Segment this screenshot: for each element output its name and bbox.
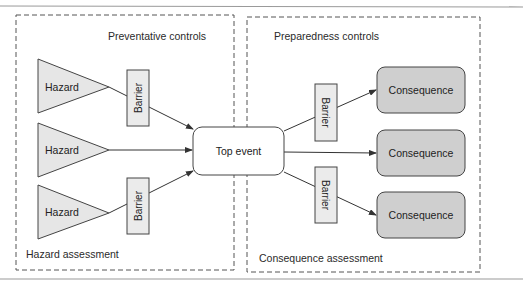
- bow-tie-diagram: Preventative controls Hazard assessment …: [0, 0, 523, 289]
- barrier-label: Barrier: [133, 82, 144, 113]
- consequence-assessment-label: Consequence assessment: [259, 252, 383, 264]
- connector-hazard-3: [109, 171, 193, 213]
- consequence-node-2: Consequence: [377, 130, 465, 176]
- consequence-node-1: Consequence: [377, 67, 465, 113]
- hazard-barrier-1: Barrier: [127, 70, 149, 126]
- hazard-node-1: Hazard: [38, 59, 109, 113]
- hazard-assessment-label: Hazard assessment: [26, 248, 119, 260]
- hazard-node-3: Hazard: [38, 185, 109, 239]
- top-event-label: Top event: [216, 145, 262, 157]
- barrier-label: Barrier: [133, 190, 144, 221]
- preventative-controls-title: Preventative controls: [108, 30, 206, 42]
- consequence-barrier-1: Barrier: [315, 84, 337, 141]
- consequence-label: Consequence: [389, 209, 454, 221]
- top-event-node: Top event: [193, 127, 284, 175]
- top-rule: [0, 6, 523, 7]
- hazard-barrier-2: Barrier: [127, 178, 149, 234]
- consequence-label: Consequence: [389, 84, 454, 96]
- connector-consequence-2: [284, 152, 376, 153]
- hazard-label: Hazard: [45, 81, 79, 93]
- barrier-label: Barrier: [320, 180, 331, 211]
- hazard-label: Hazard: [45, 144, 79, 156]
- hazard-node-2: Hazard: [38, 123, 109, 177]
- hazard-label: Hazard: [45, 206, 79, 218]
- preparedness-controls-title: Preparedness controls: [274, 30, 379, 42]
- consequence-barrier-2: Barrier: [315, 167, 337, 223]
- connector-hazard-1: [109, 87, 193, 129]
- consequence-label: Consequence: [389, 147, 454, 159]
- consequence-node-3: Consequence: [377, 192, 465, 238]
- barrier-label: Barrier: [320, 97, 331, 128]
